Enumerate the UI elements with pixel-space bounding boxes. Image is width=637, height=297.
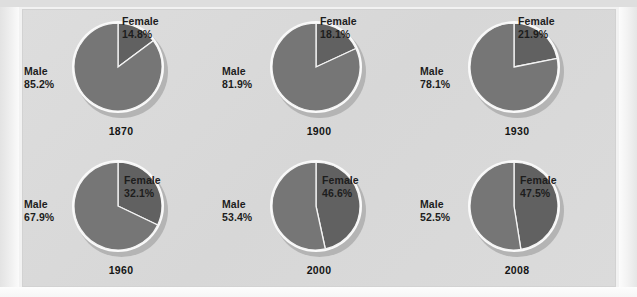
label-female-value: 18.1% xyxy=(320,28,357,41)
pie-panel-1960: Female32.1%Male67.9%1960 xyxy=(22,148,220,287)
pie-panel-2008: Female47.5%Male52.5%2008 xyxy=(418,148,616,287)
label-female-name: Female xyxy=(518,15,555,28)
label-female: Female21.9% xyxy=(518,15,555,40)
label-year: 1930 xyxy=(418,125,616,137)
label-male-name: Male xyxy=(222,65,252,78)
label-male-value: 53.4% xyxy=(222,211,252,224)
label-female-name: Female xyxy=(122,15,159,28)
label-female-name: Female xyxy=(520,174,557,187)
scan-edge-right xyxy=(619,0,637,297)
label-male: Male67.9% xyxy=(24,198,54,223)
label-female-value: 21.9% xyxy=(518,28,555,41)
label-year: 1960 xyxy=(22,264,220,276)
label-male-name: Male xyxy=(420,198,450,211)
label-male-value: 85.2% xyxy=(24,78,54,91)
label-male: Male85.2% xyxy=(24,65,54,90)
label-male-value: 52.5% xyxy=(420,211,450,224)
label-female-value: 32.1% xyxy=(124,187,161,200)
label-female: Female18.1% xyxy=(320,15,357,40)
label-female: Female46.6% xyxy=(322,174,359,199)
label-female-value: 47.5% xyxy=(520,187,557,200)
label-male-name: Male xyxy=(24,65,54,78)
label-male-value: 67.9% xyxy=(24,211,54,224)
label-male-name: Male xyxy=(222,198,252,211)
pie-panel-1930: Female21.9%Male78.1%1930 xyxy=(418,9,616,148)
scan-edge-top xyxy=(0,0,637,7)
label-male-name: Male xyxy=(24,198,54,211)
label-female-value: 46.6% xyxy=(322,187,359,200)
label-year: 2008 xyxy=(418,264,616,276)
label-male: Male52.5% xyxy=(420,198,450,223)
slice-male xyxy=(470,162,521,250)
label-female: Female14.8% xyxy=(122,15,159,40)
label-male: Male81.9% xyxy=(222,65,252,90)
label-female-value: 14.8% xyxy=(122,28,159,41)
label-male: Male78.1% xyxy=(420,65,450,90)
label-female: Female47.5% xyxy=(520,174,557,199)
pie-chart-grid: Female14.8%Male85.2%1870Female18.1%Male8… xyxy=(22,9,616,287)
label-male-value: 81.9% xyxy=(222,78,252,91)
scan-edge-left xyxy=(0,0,19,297)
label-male: Male53.4% xyxy=(222,198,252,223)
scanned-figure-frame: Female14.8%Male85.2%1870Female18.1%Male8… xyxy=(0,0,637,297)
label-female-name: Female xyxy=(124,174,161,187)
label-female-name: Female xyxy=(322,174,359,187)
label-year: 1870 xyxy=(22,125,220,137)
label-male-value: 78.1% xyxy=(420,78,450,91)
label-female: Female32.1% xyxy=(124,174,161,199)
label-year: 1900 xyxy=(220,125,418,137)
label-male-name: Male xyxy=(420,65,450,78)
pie-panel-1870: Female14.8%Male85.2%1870 xyxy=(22,9,220,148)
label-year: 2000 xyxy=(220,264,418,276)
pie-panel-2000: Female46.6%Male53.4%2000 xyxy=(220,148,418,287)
scan-edge-bottom xyxy=(0,287,637,297)
pie-panel-1900: Female18.1%Male81.9%1900 xyxy=(220,9,418,148)
label-female-name: Female xyxy=(320,15,357,28)
